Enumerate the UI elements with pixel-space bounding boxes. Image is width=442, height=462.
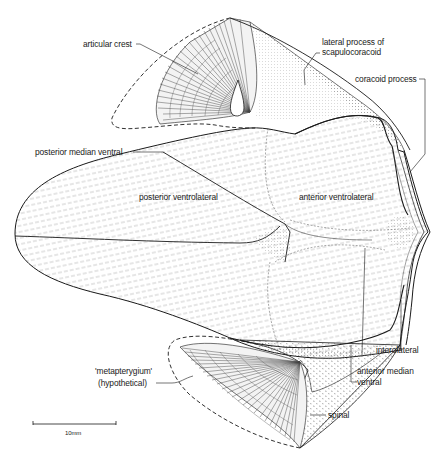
label-metapterygium-2: (hypothetical) <box>98 378 147 388</box>
cropped-title <box>145 0 295 2</box>
upper-pectoral-fin <box>112 18 257 129</box>
label-posterior-ventrolateral: posterior ventrolateral <box>139 192 218 202</box>
diagram-drawing <box>0 0 442 462</box>
label-spinal: spinal <box>328 410 349 420</box>
label-anterior-ventrolateral: anterior ventrolateral <box>299 192 374 202</box>
anatomical-figure: articular crest lateral process of scapu… <box>0 0 442 462</box>
label-articular-crest: articular crest <box>83 39 132 49</box>
label-lateral-process-2: scapulocoracoid <box>322 47 381 57</box>
label-anterior-median-1: anterior median <box>357 366 414 376</box>
label-posterior-median-ventral: posterior median ventral <box>35 147 122 157</box>
label-lateral-process-1: lateral process of <box>322 37 384 47</box>
label-metapterygium-1: 'metapterygium' <box>95 366 152 376</box>
label-coracoid-process: coracoid process <box>355 74 417 84</box>
label-interolateral: interolateral <box>376 345 418 355</box>
lower-pectoral-fin <box>168 336 400 448</box>
label-anterior-median-2: ventral <box>357 377 381 387</box>
scale-bar-label: 10mm <box>65 428 81 438</box>
scale-bar <box>33 421 116 425</box>
